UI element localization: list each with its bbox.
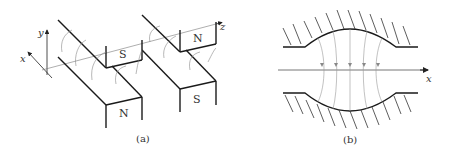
figure-a: y x z [20, 15, 226, 144]
x-axis-label: x [20, 53, 26, 64]
caption-b: (b) [343, 134, 357, 145]
pole-label-s-front: S [119, 48, 127, 61]
x-axis [28, 52, 52, 78]
lower-pole-boundary [283, 93, 418, 111]
z-axis-label: z [219, 21, 226, 32]
upper-hatching [283, 10, 410, 45]
magnet-front [58, 20, 142, 128]
figure-b: x (b) [278, 10, 432, 145]
caption-a: (a) [136, 133, 150, 144]
upper-pole-boundary [283, 29, 418, 47]
lower-hatching [285, 95, 411, 129]
pole-label-n-back: N [193, 32, 203, 45]
pole-label-s-back: S [193, 93, 201, 106]
y-axis-label: y [37, 27, 44, 38]
field-arrows-b [320, 63, 380, 67]
x-axis-label-b: x [426, 73, 432, 84]
pole-label-n-front: N [119, 107, 129, 120]
